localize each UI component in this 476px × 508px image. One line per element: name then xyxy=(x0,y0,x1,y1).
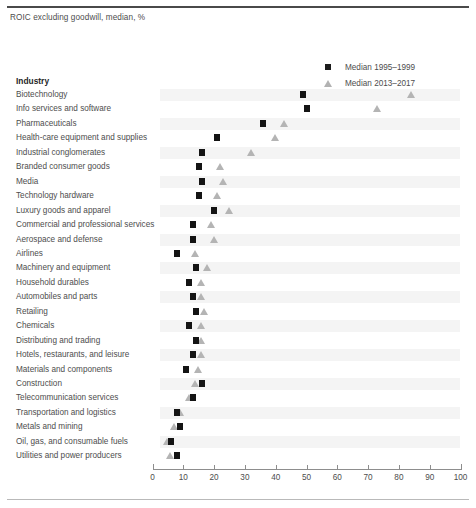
chart-row: Machinery and equipment xyxy=(0,261,476,275)
data-point-median-1995-1999 xyxy=(186,279,192,286)
chart-row: Branded consumer goods xyxy=(0,160,476,174)
x-axis-tick xyxy=(214,465,215,469)
chart-row: Oil, gas, and consumable fuels xyxy=(0,435,476,449)
category-label: Aerospace and defense xyxy=(16,235,103,244)
chart-row: Household durables xyxy=(0,276,476,290)
data-point-median-2013-2017 xyxy=(210,236,218,243)
category-label: Materials and components xyxy=(16,365,112,374)
data-point-median-2013-2017 xyxy=(197,293,205,300)
chart-row: Aerospace and defense xyxy=(0,233,476,247)
data-point-median-2013-2017 xyxy=(280,120,288,127)
category-label: Commercial and professional services xyxy=(16,220,154,229)
data-point-median-1995-1999 xyxy=(199,178,205,185)
chart-row: Automobiles and parts xyxy=(0,290,476,304)
data-point-median-2013-2017 xyxy=(194,366,202,373)
x-axis-tick xyxy=(245,465,246,469)
data-point-median-2013-2017 xyxy=(225,207,233,214)
x-axis-line xyxy=(153,469,461,470)
x-axis-tick xyxy=(307,465,308,469)
category-label: Chemicals xyxy=(16,321,54,330)
category-label: Telecommunication services xyxy=(16,393,118,402)
chart-row: Pharmaceuticals xyxy=(0,117,476,131)
data-point-median-2013-2017 xyxy=(203,264,211,271)
x-axis-tick-label: 30 xyxy=(233,473,257,482)
chart-row: Industrial conglomerates xyxy=(0,146,476,160)
chart-row: Commercial and professional services xyxy=(0,218,476,232)
category-label: Transportation and logistics xyxy=(16,408,116,417)
chart-row: Distributing and trading xyxy=(0,334,476,348)
data-point-median-1995-1999 xyxy=(196,163,202,170)
category-label: Media xyxy=(16,177,38,186)
x-axis-tick-label: 0 xyxy=(141,473,165,482)
row-band xyxy=(160,234,460,246)
chart-row: Transportation and logistics xyxy=(0,406,476,420)
data-point-median-1995-1999 xyxy=(304,105,310,112)
category-label: Health-care equipment and supplies xyxy=(16,133,147,142)
row-band xyxy=(160,176,460,188)
data-point-median-1995-1999 xyxy=(193,337,199,344)
scatter-plot: Industry BiotechnologyInfo services and … xyxy=(0,0,476,508)
category-label: Biotechnology xyxy=(16,90,67,99)
chart-row: Metals and mining xyxy=(0,420,476,434)
category-label: Distributing and trading xyxy=(16,336,100,345)
x-axis-tick xyxy=(430,465,431,469)
data-point-median-1995-1999 xyxy=(300,91,306,98)
x-axis-tick-label: 60 xyxy=(325,473,349,482)
x-axis-tick-label: 100 xyxy=(449,473,473,482)
category-label: Airlines xyxy=(16,249,43,258)
category-label: Oil, gas, and consumable fuels xyxy=(16,437,128,446)
x-axis-tick xyxy=(183,465,184,469)
category-label: Pharmaceuticals xyxy=(16,119,77,128)
chart-row: Media xyxy=(0,175,476,189)
x-axis-tick-label: 80 xyxy=(387,473,411,482)
x-axis-tick xyxy=(461,464,462,470)
data-point-median-1995-1999 xyxy=(186,322,192,329)
data-point-median-2013-2017 xyxy=(197,351,205,358)
data-point-median-1995-1999 xyxy=(211,207,217,214)
data-point-median-2013-2017 xyxy=(200,308,208,315)
data-point-median-2013-2017 xyxy=(271,134,279,141)
data-point-median-2013-2017 xyxy=(216,163,224,170)
data-point-median-1995-1999 xyxy=(174,250,180,257)
data-point-median-1995-1999 xyxy=(199,149,205,156)
x-axis-tick-label: 40 xyxy=(264,473,288,482)
x-axis-tick-label: 10 xyxy=(171,473,195,482)
data-point-median-1995-1999 xyxy=(174,409,180,416)
chart-row: Construction xyxy=(0,377,476,391)
chart-row: Retailing xyxy=(0,305,476,319)
data-point-median-2013-2017 xyxy=(247,149,255,156)
data-point-median-1995-1999 xyxy=(214,134,220,141)
data-point-median-1995-1999 xyxy=(190,221,196,228)
category-label: Technology hardware xyxy=(16,191,94,200)
category-label: Utilities and power producers xyxy=(16,451,122,460)
x-axis-tick xyxy=(153,464,154,470)
category-label: Automobiles and parts xyxy=(16,292,97,301)
category-label: Household durables xyxy=(16,278,89,287)
category-label: Metals and mining xyxy=(16,422,82,431)
data-point-median-1995-1999 xyxy=(196,192,202,199)
chart-row: Airlines xyxy=(0,247,476,261)
x-axis-tick xyxy=(337,465,338,469)
x-axis-tick xyxy=(276,465,277,469)
row-band xyxy=(160,89,460,101)
x-axis-tick xyxy=(399,465,400,469)
data-point-median-2013-2017 xyxy=(197,279,205,286)
data-point-median-1995-1999 xyxy=(260,120,266,127)
data-point-median-2013-2017 xyxy=(207,221,215,228)
row-band xyxy=(160,118,460,130)
chart-row: Health-care equipment and supplies xyxy=(0,131,476,145)
category-label: Retailing xyxy=(16,307,48,316)
chart-row: Utilities and power producers xyxy=(0,449,476,463)
chart-row: Materials and components xyxy=(0,363,476,377)
data-point-median-2013-2017 xyxy=(407,91,415,98)
chart-row: Chemicals xyxy=(0,319,476,333)
bottom-divider xyxy=(7,499,469,500)
row-band xyxy=(160,378,460,390)
category-label: Machinery and equipment xyxy=(16,263,110,272)
x-axis-tick-label: 90 xyxy=(418,473,442,482)
category-label: Construction xyxy=(16,379,62,388)
row-band xyxy=(160,205,460,217)
data-point-median-1995-1999 xyxy=(183,366,189,373)
data-point-median-1995-1999 xyxy=(168,438,174,445)
chart-row: Biotechnology xyxy=(0,88,476,102)
